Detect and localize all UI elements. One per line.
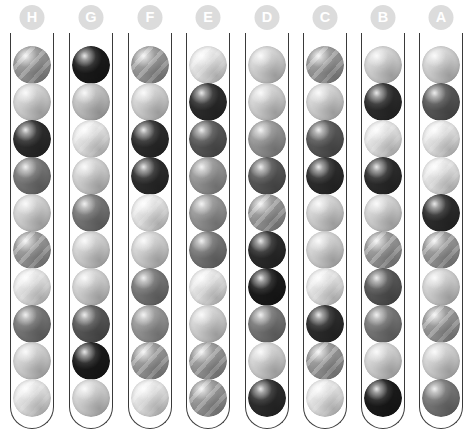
ball-rim [13,231,51,269]
ball[interactable] [72,342,110,380]
ball[interactable] [72,46,110,84]
ball[interactable] [13,46,51,84]
tube-label-b: B [371,5,396,30]
ball[interactable] [72,157,110,195]
ball[interactable] [364,83,402,121]
ball[interactable] [364,194,402,232]
ball[interactable] [306,305,344,343]
ball[interactable] [131,157,169,195]
ball[interactable] [248,194,286,232]
tube-c[interactable]: C [303,33,347,429]
ball[interactable] [306,342,344,380]
ball[interactable] [189,157,227,195]
ball[interactable] [306,194,344,232]
ball[interactable] [131,120,169,158]
ball[interactable] [189,379,227,417]
ball-rim [131,46,169,84]
ball[interactable] [306,46,344,84]
ball[interactable] [72,231,110,269]
ball[interactable] [248,46,286,84]
ball[interactable] [72,268,110,306]
ball[interactable] [422,379,460,417]
ball[interactable] [248,231,286,269]
ball[interactable] [422,194,460,232]
tube-d[interactable]: D [245,33,289,429]
ball[interactable] [364,157,402,195]
ball[interactable] [131,342,169,380]
ball[interactable] [131,305,169,343]
ball[interactable] [306,120,344,158]
ball[interactable] [13,83,51,121]
ball[interactable] [248,157,286,195]
ball[interactable] [422,157,460,195]
ball[interactable] [306,379,344,417]
ball[interactable] [364,268,402,306]
ball[interactable] [72,120,110,158]
ball[interactable] [364,120,402,158]
ball[interactable] [13,305,51,343]
ball[interactable] [189,305,227,343]
ball[interactable] [306,268,344,306]
ball[interactable] [13,268,51,306]
ball[interactable] [364,305,402,343]
ball[interactable] [189,83,227,121]
ball[interactable] [131,83,169,121]
tube-a[interactable]: A [419,33,463,429]
ball[interactable] [131,379,169,417]
ball[interactable] [422,268,460,306]
ball[interactable] [422,231,460,269]
ball[interactable] [131,268,169,306]
ball[interactable] [306,231,344,269]
ball[interactable] [189,231,227,269]
ball[interactable] [13,379,51,417]
tube-ball-stack [11,33,53,428]
tube-e[interactable]: E [186,33,230,429]
ball[interactable] [72,194,110,232]
ball-rim [131,157,169,195]
ball[interactable] [422,342,460,380]
ball-rim [72,305,110,343]
tube-h[interactable]: H [10,33,54,429]
ball[interactable] [422,120,460,158]
ball[interactable] [364,342,402,380]
ball-rim [131,305,169,343]
ball[interactable] [306,157,344,195]
ball[interactable] [189,120,227,158]
ball[interactable] [248,268,286,306]
ball[interactable] [248,120,286,158]
ball-rim [131,194,169,232]
ball[interactable] [131,46,169,84]
ball[interactable] [13,120,51,158]
ball[interactable] [13,157,51,195]
ball[interactable] [248,379,286,417]
ball[interactable] [306,83,344,121]
ball[interactable] [72,305,110,343]
ball[interactable] [422,46,460,84]
ball-rim [248,268,286,306]
ball[interactable] [189,46,227,84]
tube-f[interactable]: F [128,33,172,429]
ball[interactable] [189,268,227,306]
ball[interactable] [131,231,169,269]
ball[interactable] [13,194,51,232]
tube-ball-stack [362,33,404,428]
ball[interactable] [364,379,402,417]
tube-b[interactable]: B [361,33,405,429]
ball[interactable] [248,342,286,380]
ball-rim [364,231,402,269]
ball[interactable] [13,231,51,269]
ball[interactable] [248,305,286,343]
ball-rim [364,194,402,232]
tube-g[interactable]: G [69,33,113,429]
ball[interactable] [72,83,110,121]
ball[interactable] [189,342,227,380]
ball[interactable] [364,46,402,84]
ball[interactable] [422,305,460,343]
ball[interactable] [13,342,51,380]
ball[interactable] [189,194,227,232]
ball[interactable] [131,194,169,232]
ball[interactable] [364,231,402,269]
ball[interactable] [72,379,110,417]
ball[interactable] [248,83,286,121]
ball[interactable] [422,83,460,121]
